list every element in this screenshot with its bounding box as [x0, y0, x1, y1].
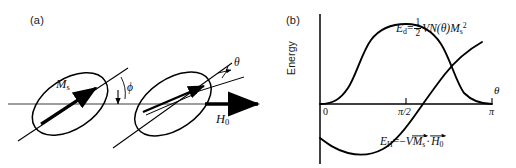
- panel-b: (b) Energy 0 π/2 π θ Ed= 1 2 V: [270, 0, 516, 168]
- ms-subscript: s: [66, 82, 69, 92]
- ed-equals: =: [407, 22, 414, 34]
- y-axis-label: Energy: [285, 28, 297, 88]
- label-angle-phi: ϕ: [127, 82, 133, 94]
- formula-zeeman-energy: EH=−V Ms · H0: [380, 136, 443, 149]
- formula-demagnetization-energy: Ed= 1 2 VN(θ)Ms2: [396, 18, 467, 39]
- eh-h0-vector: H0: [431, 136, 443, 149]
- eh-volume: V: [406, 135, 413, 147]
- xtick-label-pi-over-2: π/2: [398, 106, 411, 117]
- magnetization-arrow-right: [143, 86, 204, 112]
- panel-a: (a): [0, 0, 270, 168]
- magnetization-arrow-left: [41, 88, 96, 124]
- phi-angle-arc: [121, 77, 125, 99]
- ed-demag-factor: N: [429, 22, 437, 34]
- h0-subscript: 0: [225, 117, 229, 127]
- ed-ms: M: [450, 22, 460, 34]
- panel-b-label: (b): [286, 14, 300, 26]
- label-magnetization-ms: Ms: [56, 78, 70, 92]
- phi-symbol: ϕ: [127, 81, 133, 93]
- figure-container: (a): [0, 0, 516, 168]
- xtick-label-0: 0: [323, 106, 328, 117]
- label-field-h0: H0: [216, 113, 229, 127]
- xtick-label-pi: π: [489, 106, 494, 117]
- ed-frac-numerator: 1: [414, 18, 421, 28]
- eh-ms-vector: Ms: [413, 136, 426, 149]
- ed-fraction-one-half: 1 2: [414, 18, 421, 39]
- eh-h0-sub: 0: [440, 140, 444, 149]
- eh-lhs: E: [380, 135, 387, 147]
- eh-h0: H: [431, 135, 439, 147]
- eh-ms-sub: s: [422, 140, 425, 149]
- x-axis-label-theta: θ: [494, 84, 499, 96]
- ed-theta-arg: (θ): [437, 22, 450, 34]
- eh-ms: M: [413, 135, 423, 147]
- theta-symbol: θ: [234, 56, 240, 68]
- ed-ms-sup: 2: [463, 21, 467, 30]
- ed-frac-denominator: 2: [414, 28, 421, 39]
- ed-lhs: E: [396, 22, 403, 34]
- ms-symbol: M: [56, 77, 66, 91]
- theta-reference-line: [196, 77, 244, 92]
- h0-symbol: H: [216, 112, 225, 126]
- panel-a-label: (a): [30, 14, 44, 26]
- label-angle-theta: θ: [234, 57, 240, 69]
